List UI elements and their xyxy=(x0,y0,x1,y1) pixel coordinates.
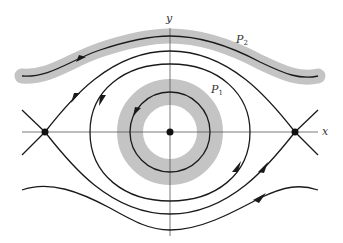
p1-label-sub: 1 xyxy=(218,89,222,97)
x-axis-label: x xyxy=(322,126,328,137)
arrow-icon xyxy=(258,162,268,173)
phase-portrait-diagram: y x P2 P1 xyxy=(0,0,343,243)
left-saddle-point xyxy=(42,129,49,136)
left-saddle-branch-ll xyxy=(22,132,45,155)
right-saddle-point xyxy=(292,129,299,136)
left-saddle-branch-ul xyxy=(22,110,45,132)
right-saddle-branch-ur xyxy=(295,110,318,132)
arrow-icon xyxy=(253,193,266,203)
center-equilibrium xyxy=(167,129,174,136)
phase-portrait-svg xyxy=(0,0,343,243)
p1-label: P1 xyxy=(211,84,223,97)
p2-label-sub: 2 xyxy=(243,39,247,47)
arrow-icon xyxy=(232,161,241,172)
y-axis-label: y xyxy=(166,13,172,24)
arrow-icon xyxy=(99,95,106,106)
arrow-icon xyxy=(71,93,80,103)
p2-label: P2 xyxy=(236,34,248,47)
right-saddle-branch-lr xyxy=(295,132,318,155)
